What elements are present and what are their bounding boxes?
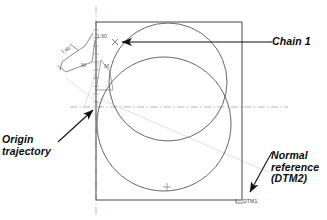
datum-label-dtm1: DTM1	[243, 198, 257, 204]
callout-chain-1: Chain 1	[272, 36, 311, 48]
upper-circle	[109, 23, 227, 141]
material-condition-modifier-1: M	[81, 62, 86, 68]
normal-reference-leader-line[interactable]	[250, 152, 272, 192]
dimension-value-top: 1.60	[97, 33, 107, 39]
chain-point-marker	[112, 39, 118, 45]
drawing-vector-layer	[0, 0, 327, 220]
center-mark-icon	[163, 183, 171, 191]
callout-origin-trajectory: Origintrajectory	[2, 134, 51, 157]
origin-trajectory-leader-line[interactable]	[58, 110, 93, 142]
callout-normal-reference: Normalreference(DTM2)	[271, 150, 319, 185]
callout-normal-line1: Normal	[271, 149, 308, 161]
callout-normal-line2: reference	[271, 161, 319, 173]
cad-drawing-canvas: Chain 1 Origintrajectory Normalreference…	[0, 0, 327, 220]
material-condition-modifier-2: M	[104, 63, 109, 69]
callout-origin-line2: trajectory	[2, 145, 51, 157]
callout-origin-line1: Origin	[2, 133, 34, 145]
part-outline-rectangle	[96, 22, 242, 200]
callout-normal-line3: (DTM2)	[271, 172, 307, 184]
lower-circle	[97, 57, 231, 191]
